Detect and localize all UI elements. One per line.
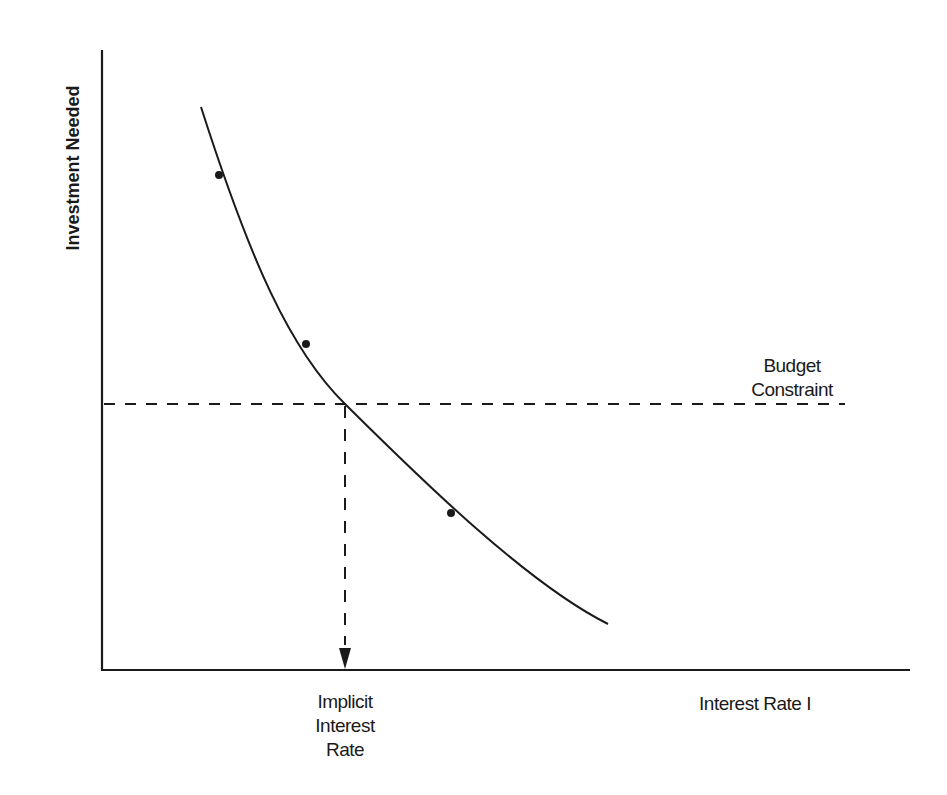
x-axis-label: Interest Rate I [665, 692, 845, 716]
implicit-label-line3: Rate [290, 738, 400, 762]
curve-point-1 [215, 171, 223, 179]
budget-label-line2: Constraint [727, 378, 857, 402]
implicit-label-line1: Implicit [290, 690, 400, 714]
budget-constraint-label: Budget Constraint [727, 354, 857, 402]
arrow-down-icon [339, 648, 351, 669]
implicit-interest-rate-label: Implicit Interest Rate [290, 690, 400, 762]
y-axis-label: Investment Needed [63, 101, 84, 251]
investment-curve [201, 107, 608, 624]
curve-point-3 [447, 509, 455, 517]
budget-label-line1: Budget [727, 354, 857, 378]
curve-point-2 [302, 340, 310, 348]
implicit-label-line2: Interest [290, 714, 400, 738]
